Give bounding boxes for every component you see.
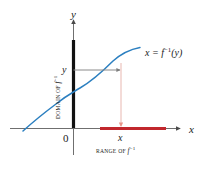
- y-value-label: y: [62, 65, 66, 75]
- x-value-label: x: [118, 133, 122, 143]
- domain-caption-text: DOMAIN OF: [55, 84, 61, 119]
- curve-label-argument: (y): [171, 47, 182, 58]
- curve-label-main: x = f: [145, 47, 164, 58]
- range-caption-text: RANGE OF: [96, 148, 127, 154]
- inverse-function-curve: [23, 48, 140, 132]
- origin-label: 0: [63, 133, 69, 144]
- x-axis-label: x: [189, 124, 194, 135]
- range-caption: RANGE OF f−1: [96, 146, 136, 155]
- curve-label: x = f−1(y): [145, 47, 182, 58]
- inverse-function-figure: y x 0 y x x = f−1(y) DOMAIN OF f−1 RANGE…: [0, 0, 202, 172]
- y-axis-label: y: [71, 9, 76, 20]
- domain-caption: DOMAIN OF f−1: [53, 76, 62, 120]
- domain-caption-exponent: −1: [53, 76, 58, 82]
- domain-caption-symbol: f: [54, 81, 62, 83]
- range-caption-exponent: −1: [130, 146, 136, 151]
